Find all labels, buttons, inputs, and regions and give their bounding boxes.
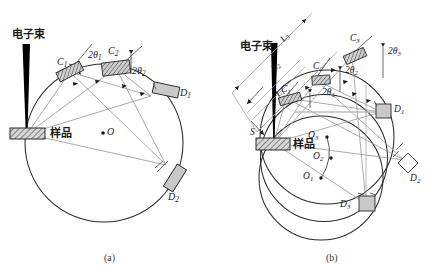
center-label-a: O: [107, 127, 114, 137]
circle-center-point-a: [101, 131, 105, 135]
center-label-O3-b: O3: [308, 131, 318, 141]
detector-D1-a: [152, 82, 180, 98]
figure-root: 电子束 样品 O C1 C2 2θ1 2θ2 D1 D2 (a) 电子束 样品 …: [0, 0, 436, 280]
crystal-C2-b: [312, 75, 331, 85]
center-point-O1-b: [319, 176, 322, 179]
detector-label-D2-b: D2: [410, 174, 420, 184]
center-label-O1-b: O1: [303, 172, 313, 182]
caption-a: (a): [104, 252, 115, 263]
sample-slab-a: [10, 128, 45, 139]
angle-label-2theta2-a: 2θ2: [132, 66, 146, 78]
center-point-O2-b: [329, 156, 332, 159]
beam-label-a: 电子束: [12, 29, 45, 40]
center-point-O3-b: [325, 135, 328, 138]
detector-label-D2-a: D2: [168, 192, 179, 204]
angle-label-2theta1-b: 2θ1: [322, 88, 335, 98]
center-label-O2-b: O2: [313, 152, 323, 162]
crystal-label-C2-b: C2: [313, 62, 323, 72]
detector-label-D3-b: D3: [340, 200, 350, 210]
electron-beam-wedge-a: [23, 44, 31, 134]
crystal-label-C3-b: C3: [350, 34, 360, 44]
sample-slab-b: [256, 138, 290, 150]
angle-label-2theta1-a: 2θ1: [88, 50, 102, 62]
detector-label-D1-a: D1: [180, 88, 191, 100]
source-label-S-b: S: [250, 128, 255, 138]
panel-a-group: [10, 44, 187, 222]
crystal-label-C1-a: C1: [57, 57, 67, 69]
detector-D1-b: [376, 104, 391, 118]
detector-D2-b: [398, 153, 418, 173]
caption-b: (b): [326, 252, 338, 263]
diagram-canvas: [0, 0, 436, 280]
beam-label-b: 电子束: [240, 41, 273, 52]
angle-label-2theta2-b: 2θ2: [345, 66, 358, 76]
detector-D2-a: [163, 164, 186, 192]
detector-label-D1-b: D1: [394, 105, 404, 115]
crystal-C3-b: [343, 47, 367, 64]
crystal-label-C1-b: C1: [281, 85, 291, 95]
sample-label-a: 样品: [50, 128, 72, 139]
detector-D3-b: [359, 196, 375, 211]
crystal-C2-a: [101, 60, 130, 76]
angle-label-2theta3-b: 2θ3: [388, 47, 401, 57]
crystal-label-C2-a: C2: [108, 46, 118, 58]
